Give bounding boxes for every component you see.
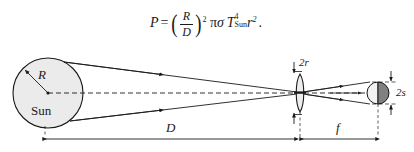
- sun-radius-label: R: [38, 68, 46, 81]
- ray-arrow-upper: [64, 62, 162, 75]
- optics-figure: P=(RD)2 πσ T4Sunr2.: [0, 0, 414, 152]
- diagram-canvas: [0, 0, 414, 152]
- image-size-label: 2s: [396, 87, 406, 98]
- focal-length-label: f: [336, 121, 340, 134]
- ray-out-arrow-upper: [306, 86, 342, 91]
- sun-name-label: Sun: [31, 104, 51, 117]
- image-ball-shaded-half: [378, 82, 389, 104]
- lens-aperture-label: 2r: [299, 57, 309, 68]
- distance-D-label: D: [166, 121, 175, 134]
- ray-arrow-lower: [70, 110, 162, 121]
- image-ball-lit-half: [367, 82, 378, 104]
- ray-out-arrow-lower: [306, 94, 342, 99]
